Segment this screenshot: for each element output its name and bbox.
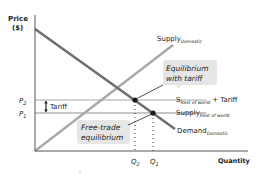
free-trade-text-1: Free-trade: [81, 123, 121, 132]
domestic-demand-label: DemandDomestic: [177, 127, 228, 136]
world-supply-tariff-label: SRest of world + Tariff: [176, 96, 238, 105]
y-axis-label-line2: ($): [12, 24, 23, 32]
q2-label: Q2: [131, 158, 140, 167]
p1-label: P1: [19, 110, 26, 119]
tariff-equilibrium-text-2: with tariff: [166, 74, 204, 83]
q1-label: Q1: [150, 158, 159, 167]
free-trade-text-2: equilibrium: [81, 133, 123, 142]
callout-leader-line: [136, 85, 163, 99]
tariff-diagram: Price ($) Tariff P2 P1 Q2 Q1 Quantity Su…: [0, 0, 263, 176]
tariff-label: Tariff: [49, 103, 67, 111]
free-trade-equilibrium-point: [150, 110, 155, 115]
world-supply-label: SupplyRest of world: [176, 109, 230, 118]
p2-label: P2: [19, 97, 26, 106]
domestic-supply-label: SupplyDomestic: [157, 35, 203, 44]
callout-tail: [176, 84, 182, 89]
tariff-equilibrium-text-1: Equilibrium: [166, 64, 209, 73]
stray-mark: [79, 171, 81, 173]
x-axis-label: Quantity: [218, 157, 251, 165]
free-trade-leader-line: [128, 114, 152, 125]
y-axis-label-line1: Price: [8, 15, 28, 23]
